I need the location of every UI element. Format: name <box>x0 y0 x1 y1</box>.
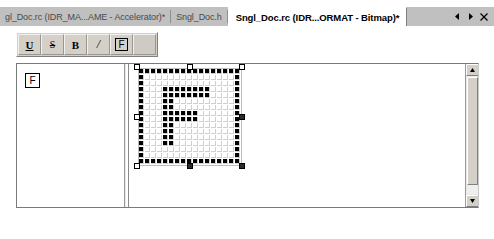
pixel-cell[interactable] <box>157 75 162 80</box>
pixel-cell[interactable] <box>229 129 234 134</box>
pixel-cell[interactable] <box>169 117 174 122</box>
pixel-cell[interactable] <box>139 153 144 158</box>
pixel-cell[interactable] <box>139 87 144 92</box>
pixel-cell[interactable] <box>169 129 174 134</box>
pixel-cell[interactable] <box>145 117 150 122</box>
pixel-cell[interactable] <box>211 123 216 128</box>
pixel-cell[interactable] <box>151 153 156 158</box>
pixel-cell[interactable] <box>163 147 168 152</box>
pixel-cell[interactable] <box>157 99 162 104</box>
pixel-cell[interactable] <box>175 147 180 152</box>
pixel-cell[interactable] <box>181 141 186 146</box>
pixel-cell[interactable] <box>205 141 210 146</box>
pixel-cell[interactable] <box>169 75 174 80</box>
next-tab-icon[interactable] <box>464 8 477 25</box>
pixel-cell[interactable] <box>157 123 162 128</box>
pixel-cell[interactable] <box>163 123 168 128</box>
pixel-cell[interactable] <box>217 69 222 74</box>
pixel-cell[interactable] <box>211 111 216 116</box>
italic-button[interactable]: / <box>87 34 110 55</box>
pixel-cell[interactable] <box>229 123 234 128</box>
pixel-cell[interactable] <box>223 159 228 164</box>
pixel-cell[interactable] <box>235 99 240 104</box>
pixel-cell[interactable] <box>211 159 216 164</box>
pixel-cell[interactable] <box>169 153 174 158</box>
pixel-cell[interactable] <box>217 153 222 158</box>
pixel-cell[interactable] <box>187 129 192 134</box>
pixel-cell[interactable] <box>229 159 234 164</box>
pixel-cell[interactable] <box>217 87 222 92</box>
pixel-cell[interactable] <box>211 129 216 134</box>
pixel-cell[interactable] <box>205 135 210 140</box>
pixel-cell[interactable] <box>181 99 186 104</box>
pixel-cell[interactable] <box>145 75 150 80</box>
pixel-cell[interactable] <box>187 99 192 104</box>
pixel-cell[interactable] <box>169 87 174 92</box>
pixel-cell[interactable] <box>145 69 150 74</box>
pixel-cell[interactable] <box>145 159 150 164</box>
close-tab-icon[interactable] <box>477 8 490 25</box>
pixel-cell[interactable] <box>181 69 186 74</box>
pixel-cell[interactable] <box>157 141 162 146</box>
pixel-cell[interactable] <box>157 129 162 134</box>
selection-handle[interactable] <box>134 64 140 70</box>
pixel-cell[interactable] <box>211 117 216 122</box>
pixel-cell[interactable] <box>217 117 222 122</box>
pixel-cell[interactable] <box>193 69 198 74</box>
pixel-cell[interactable] <box>223 111 228 116</box>
pixel-cell[interactable] <box>211 105 216 110</box>
pixel-cell[interactable] <box>235 93 240 98</box>
pixel-cell[interactable] <box>223 123 228 128</box>
pixel-cell[interactable] <box>235 81 240 86</box>
pixel-cell[interactable] <box>193 129 198 134</box>
pixel-cell[interactable] <box>157 159 162 164</box>
pixel-cell[interactable] <box>223 141 228 146</box>
bitmap-edit-pane[interactable] <box>129 64 478 207</box>
pixel-cell[interactable] <box>145 135 150 140</box>
pixel-cell[interactable] <box>199 111 204 116</box>
pixel-cell[interactable] <box>181 135 186 140</box>
pixel-cell[interactable] <box>187 75 192 80</box>
pixel-cell[interactable] <box>169 81 174 86</box>
pixel-cell[interactable] <box>175 99 180 104</box>
pixel-cell[interactable] <box>235 75 240 80</box>
pixel-cell[interactable] <box>205 147 210 152</box>
pixel-cell[interactable] <box>145 153 150 158</box>
pixel-cell[interactable] <box>217 129 222 134</box>
pixel-cell[interactable] <box>169 159 174 164</box>
pixel-cell[interactable] <box>187 81 192 86</box>
pixel-cell[interactable] <box>181 105 186 110</box>
pixel-cell[interactable] <box>193 111 198 116</box>
pixel-cell[interactable] <box>151 81 156 86</box>
pixel-cell[interactable] <box>169 99 174 104</box>
pixel-cell[interactable] <box>163 159 168 164</box>
pixel-cell[interactable] <box>175 93 180 98</box>
pixel-cell[interactable] <box>145 141 150 146</box>
pixel-cell[interactable] <box>217 123 222 128</box>
pixel-cell[interactable] <box>181 117 186 122</box>
pixel-cell[interactable] <box>175 87 180 92</box>
pixel-cell[interactable] <box>193 159 198 164</box>
pixel-cell[interactable] <box>211 87 216 92</box>
pixel-cell[interactable] <box>151 141 156 146</box>
pixel-cell[interactable] <box>169 135 174 140</box>
pixel-cell[interactable] <box>139 129 144 134</box>
pixel-cell[interactable] <box>217 75 222 80</box>
pixel-cell[interactable] <box>151 87 156 92</box>
pixel-cell[interactable] <box>199 141 204 146</box>
pixel-cell[interactable] <box>181 123 186 128</box>
pixel-cell[interactable] <box>157 81 162 86</box>
pixel-cell[interactable] <box>163 117 168 122</box>
pixel-cell[interactable] <box>193 75 198 80</box>
pixel-cell[interactable] <box>211 81 216 86</box>
pixel-cell[interactable] <box>229 69 234 74</box>
pixel-cell[interactable] <box>157 87 162 92</box>
pixel-cell[interactable] <box>193 135 198 140</box>
pixel-cell[interactable] <box>151 147 156 152</box>
pixel-cell[interactable] <box>217 81 222 86</box>
pixel-cell[interactable] <box>187 93 192 98</box>
pixel-cell[interactable] <box>187 135 192 140</box>
pixel-cell[interactable] <box>211 99 216 104</box>
pixel-cell[interactable] <box>235 141 240 146</box>
pixel-cell[interactable] <box>217 159 222 164</box>
